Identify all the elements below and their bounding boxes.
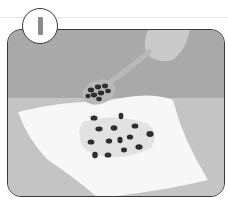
scene-drawing (8, 30, 225, 197)
damp-area (79, 117, 154, 157)
step-number-badge: 1 (22, 8, 58, 44)
step-illustration: 1 (0, 0, 228, 202)
illustration-panel (7, 29, 225, 197)
step-number-glyph (38, 17, 43, 35)
